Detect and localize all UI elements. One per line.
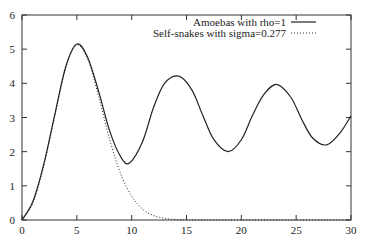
x-tick-label: 5	[74, 224, 80, 236]
y-tick-label: 4	[10, 77, 16, 89]
y-tick-label: 6	[10, 9, 16, 21]
y-tick-label: 1	[10, 180, 16, 192]
legend: Amoebas with rho=1 Self-snakes with sigm…	[153, 16, 316, 39]
x-tick-label: 25	[291, 224, 303, 236]
plot-frame	[22, 15, 351, 220]
series-line-amoebas	[22, 44, 351, 220]
axes: 0510152025300123456	[10, 9, 358, 236]
x-tick-label: 30	[346, 224, 358, 236]
y-tick-label: 0	[10, 214, 16, 226]
x-tick-label: 10	[126, 224, 138, 236]
x-tick-label: 0	[19, 224, 25, 236]
y-tick-label: 2	[10, 146, 16, 158]
y-tick-label: 5	[10, 43, 16, 55]
y-tick-label: 3	[10, 112, 16, 124]
x-tick-label: 15	[181, 224, 193, 236]
series-line-self-snakes	[22, 45, 351, 220]
legend-label-self-snakes: Self-snakes with sigma=0.277	[153, 27, 286, 39]
plot-lines	[22, 44, 351, 220]
x-tick-label: 20	[236, 224, 248, 236]
chart: 0510152025300123456 Amoebas with rho=1 S…	[0, 0, 365, 241]
